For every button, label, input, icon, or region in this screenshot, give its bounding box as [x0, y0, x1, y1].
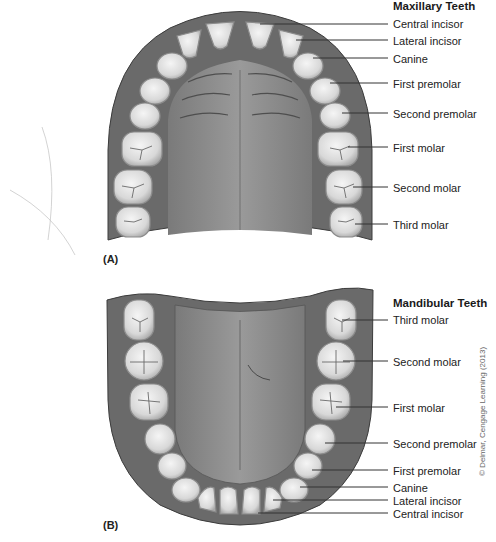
tooth-lower-second-premolar-right: [305, 424, 335, 454]
maxillary-title: Maxillary Teeth: [393, 0, 475, 12]
tooth-upper-first-molar-right: [318, 132, 358, 166]
tooth-upper-first-molar-left: [122, 132, 162, 166]
label-upper-lateral-incisor: Lateral incisor: [393, 35, 461, 47]
label-lower-first-premolar: First premolar: [393, 465, 461, 477]
mandibular-arch: [107, 288, 373, 525]
label-upper-first-molar: First molar: [393, 142, 445, 154]
label-upper-second-molar: Second molar: [393, 182, 461, 194]
label-upper-canine: Canine: [393, 53, 428, 65]
tooth-lower-first-premolar-right: [294, 453, 322, 479]
tooth-upper-second-premolar-left: [130, 103, 160, 129]
tooth-upper-second-premolar-right: [320, 103, 350, 129]
tooth-lower-third-molar-left: [124, 300, 154, 340]
label-lower-third-molar: Third molar: [393, 314, 449, 326]
tooth-upper-second-molar-left: [114, 170, 152, 204]
label-upper-third-molar: Third molar: [393, 219, 449, 231]
label-lower-lateral-incisor: Lateral incisor: [393, 495, 461, 507]
maxillary-arch: [108, 12, 372, 241]
tooth-upper-first-premolar-left: [140, 78, 170, 104]
background-stray-lines: [10, 127, 75, 255]
label-lower-second-premolar: Second premolar: [393, 438, 477, 450]
label-lower-canine: Canine: [393, 482, 428, 494]
tooth-upper-first-premolar-right: [310, 78, 340, 104]
tooth-lower-second-premolar-left: [145, 424, 175, 454]
copyright-credit: © Delmar, Cengage Learning (2013): [478, 347, 487, 476]
label-upper-central-incisor: Central incisor: [393, 18, 463, 30]
panel-label-a: (A): [103, 253, 118, 265]
label-lower-second-molar: Second molar: [393, 356, 461, 368]
tooth-upper-canine-right: [293, 53, 323, 79]
tooth-lower-canine-left: [172, 478, 200, 502]
tooth-upper-canine-left: [157, 53, 187, 79]
panel-label-b: (B): [103, 519, 118, 531]
label-lower-central-incisor: Central incisor: [393, 508, 463, 520]
label-lower-first-molar: First molar: [393, 402, 445, 414]
label-upper-first-premolar: First premolar: [393, 78, 461, 90]
tooth-lower-central-right: [242, 487, 260, 514]
tooth-lower-canine-right: [280, 478, 308, 502]
tooth-lower-central-left: [220, 487, 238, 514]
mandibular-title: Mandibular Teeth: [393, 297, 487, 309]
tooth-lower-first-premolar-left: [158, 453, 186, 479]
label-upper-second-premolar: Second premolar: [393, 108, 477, 120]
